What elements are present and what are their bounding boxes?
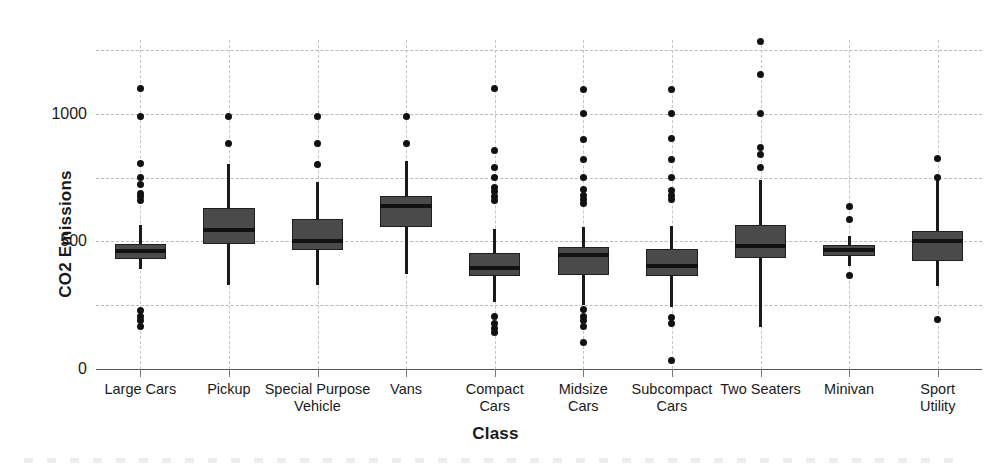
outlier-point	[137, 160, 144, 167]
outlier-point	[491, 329, 498, 336]
outlier-point	[491, 164, 498, 171]
outlier-point	[491, 174, 498, 181]
boxplot-box-group[interactable]	[716, 40, 805, 369]
outlier-point	[668, 86, 675, 93]
outlier-point	[137, 113, 144, 120]
outlier-point	[757, 151, 764, 158]
x-tick-mark	[672, 369, 673, 377]
outlier-point	[668, 135, 675, 142]
outlier-point	[757, 38, 764, 45]
box-iqr-rect	[380, 196, 431, 228]
x-tick-label: Large Cars	[104, 381, 176, 398]
boxplot-figure: CO2 Emissions 05001000Large CarsPickupSp…	[0, 0, 991, 467]
outlier-point	[846, 203, 853, 210]
x-tick-mark	[140, 369, 141, 377]
outlier-point	[668, 174, 675, 181]
box-iqr-rect	[292, 219, 343, 251]
median-line	[646, 264, 697, 268]
x-tick-label: Pickup	[207, 381, 251, 398]
x-tick-mark	[583, 369, 584, 377]
median-line	[469, 266, 520, 270]
boxplot-box-group[interactable]	[805, 40, 894, 369]
box-iqr-rect	[646, 249, 697, 276]
x-tick-label: Subcompact Cars	[632, 381, 713, 415]
outlier-point	[225, 113, 232, 120]
outlier-point	[491, 85, 498, 92]
outlier-point	[491, 197, 498, 204]
box-iqr-rect	[203, 208, 254, 244]
outlier-point	[934, 155, 941, 162]
x-tick-label: Midsize Cars	[559, 381, 608, 415]
median-line	[203, 228, 254, 232]
x-tick-mark	[495, 369, 496, 377]
outlier-point	[846, 272, 853, 279]
outlier-point	[757, 144, 764, 151]
median-line	[115, 249, 166, 253]
x-tick-mark	[229, 369, 230, 377]
outlier-point	[314, 161, 321, 168]
box-iqr-rect	[912, 231, 963, 260]
outlier-point	[137, 174, 144, 181]
outlier-point	[137, 323, 144, 330]
outlier-point	[668, 196, 675, 203]
outlier-point	[757, 110, 764, 117]
boxplot-box-group[interactable]	[185, 40, 274, 369]
outlier-point	[668, 320, 675, 327]
median-line	[823, 248, 874, 252]
x-axis-title: Class	[0, 424, 991, 444]
page-bottom-artifact	[24, 458, 967, 463]
x-tick-mark	[406, 369, 407, 377]
x-tick-label: Vans	[390, 381, 422, 398]
boxplot-box-group[interactable]	[362, 40, 451, 369]
boxplot-box-group[interactable]	[628, 40, 717, 369]
box-iqr-rect	[469, 253, 520, 276]
outlier-point	[225, 140, 232, 147]
x-tick-label: Minivan	[824, 381, 874, 398]
outlier-point	[403, 113, 410, 120]
outlier-point	[934, 316, 941, 323]
x-tick-label: Sport Utility	[916, 381, 960, 415]
outlier-point	[668, 357, 675, 364]
boxplot-box-group[interactable]	[450, 40, 539, 369]
y-tick-label: 1000	[51, 105, 87, 123]
outlier-point	[580, 200, 587, 207]
median-line	[735, 244, 786, 248]
outlier-point	[757, 164, 764, 171]
outlier-point	[403, 140, 410, 147]
outlier-point	[757, 71, 764, 78]
x-tick-mark	[761, 369, 762, 377]
x-tick-mark	[849, 369, 850, 377]
outlier-point	[580, 136, 587, 143]
outlier-point	[668, 156, 675, 163]
boxplot-box-group[interactable]	[273, 40, 362, 369]
median-line	[912, 239, 963, 243]
outlier-point	[137, 85, 144, 92]
outlier-point	[314, 140, 321, 147]
outlier-point	[846, 216, 853, 223]
outlier-point	[580, 110, 587, 117]
outlier-point	[491, 147, 498, 154]
median-line	[292, 239, 343, 243]
y-tick-label: 500	[60, 232, 87, 250]
x-tick-mark	[318, 369, 319, 377]
boxplot-box-group[interactable]	[539, 40, 628, 369]
x-tick-mark	[938, 369, 939, 377]
median-line	[558, 253, 609, 257]
y-tick-label: 0	[78, 360, 87, 378]
plot-area: 05001000Large CarsPickupSpecial Purpose …	[96, 40, 982, 369]
outlier-point	[668, 110, 675, 117]
x-tick-label: Two Seaters	[720, 381, 801, 398]
boxplot-box-group[interactable]	[96, 40, 185, 369]
outlier-point	[580, 339, 587, 346]
box-iqr-rect	[735, 225, 786, 258]
x-tick-label: Compact Cars	[466, 381, 524, 415]
outlier-point	[580, 156, 587, 163]
x-tick-label: Special Purpose Vehicle	[265, 381, 371, 415]
outlier-point	[314, 113, 321, 120]
outlier-point	[137, 197, 144, 204]
median-line	[380, 204, 431, 208]
outlier-point	[137, 181, 144, 188]
boxplot-box-group[interactable]	[893, 40, 982, 369]
box-iqr-rect	[558, 247, 609, 275]
outlier-point	[580, 86, 587, 93]
